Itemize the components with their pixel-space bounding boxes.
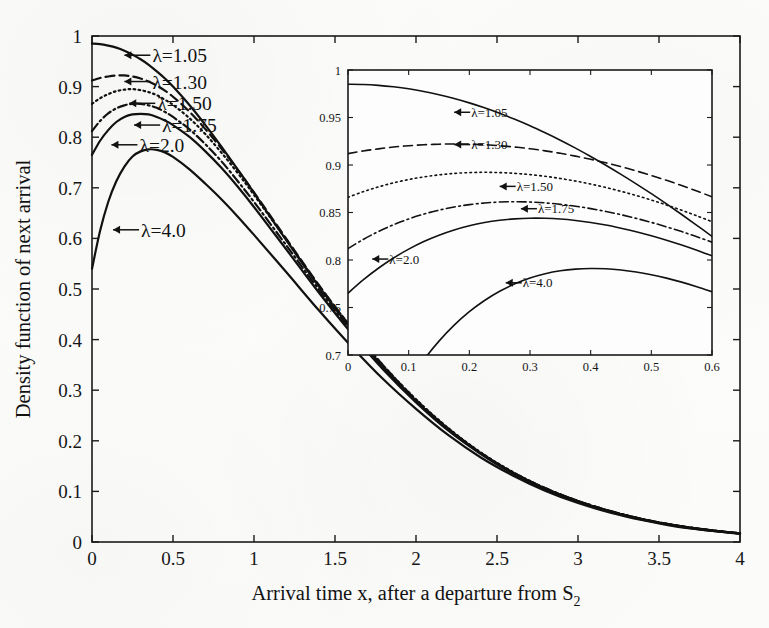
y-tick-label: 0.4 — [58, 330, 82, 351]
inset-y-tick-label: 0.95 — [319, 111, 341, 125]
density-function-chart: 00.511.522.533.5400.10.20.30.40.50.60.70… — [0, 0, 769, 628]
annotation-label: λ=1.30 — [152, 72, 207, 93]
inset-x-tick-label: 0.3 — [522, 360, 538, 374]
annotation-label: λ=2.0 — [389, 252, 419, 267]
x-tick-label: 3.5 — [647, 548, 671, 569]
y-tick-label: 0.9 — [58, 77, 82, 98]
inset-x-tick-label: 0.4 — [583, 360, 599, 374]
inset-x-tick-label: 0.6 — [704, 360, 720, 374]
curve-annotation: λ=1.50 — [129, 93, 212, 114]
inset-x-tick-label: 0.2 — [462, 360, 478, 374]
y-tick-label: 0.1 — [58, 481, 82, 502]
x-axis-title-subscript: 2 — [574, 594, 581, 609]
annotation-label: λ=1.05 — [471, 105, 507, 120]
inset-y-tick-label: 0.9 — [325, 159, 341, 173]
annotation-label: λ=1.75 — [162, 115, 217, 136]
x-tick-label: 1 — [249, 548, 259, 569]
y-tick-label: 0.5 — [58, 279, 82, 300]
figure-page: 00.511.522.533.5400.10.20.30.40.50.60.70… — [0, 0, 769, 628]
annotation-arrow-head — [111, 141, 118, 149]
annotation-arrow-head — [124, 78, 131, 86]
curve-annotation: λ=1.30 — [124, 72, 207, 93]
annotation-label: λ=1.30 — [471, 137, 507, 152]
annotation-label: λ=2.0 — [139, 135, 184, 156]
inset-x-tick-label: 0.5 — [644, 360, 660, 374]
curve-annotation: λ=1.75 — [134, 115, 217, 136]
annotation-label: λ=1.05 — [152, 45, 207, 66]
inset-x-tick-label: 0 — [345, 360, 351, 374]
annotation-arrow-head — [129, 99, 136, 107]
annotation-arrow-head — [134, 121, 141, 129]
y-tick-label: 0.2 — [58, 431, 82, 452]
curve-annotation: λ=1.05 — [124, 45, 207, 66]
x-tick-label: 0.5 — [161, 548, 185, 569]
inset-y-tick-label: 0.8 — [325, 254, 341, 268]
inset-y-tick-label: 0.7 — [325, 349, 341, 363]
annotation-label: λ=1.75 — [538, 201, 574, 216]
inset-y-tick-label: 0.75 — [319, 301, 341, 315]
x-tick-label: 3 — [573, 548, 583, 569]
y-tick-label: 0.6 — [58, 228, 82, 249]
inset-background — [348, 70, 712, 355]
y-tick-label: 0.7 — [58, 178, 82, 199]
curve-annotation: λ=2.0 — [111, 135, 184, 156]
x-tick-label: 2 — [411, 548, 421, 569]
inset-x-tick-label: 0.1 — [401, 360, 417, 374]
inset-y-tick-label: 1 — [335, 64, 341, 78]
x-axis-title: Arrival time x, after a departure from S… — [251, 582, 580, 609]
x-tick-label: 0 — [87, 548, 97, 569]
y-tick-label: 0 — [73, 532, 83, 553]
y-tick-label: 0.8 — [58, 127, 82, 148]
y-tick-label: 1 — [73, 26, 83, 47]
annotation-label: λ=1.50 — [517, 179, 553, 194]
annotation-label: λ=4.0 — [141, 220, 186, 241]
main-annotation-group: λ=1.05λ=1.30λ=1.50λ=1.75λ=2.0λ=4.0 — [111, 45, 216, 241]
y-axis-title: Density function of next arrival — [12, 159, 35, 418]
inset-y-tick-label: 0.85 — [319, 206, 341, 220]
x-tick-label: 2.5 — [485, 548, 509, 569]
curve-annotation: λ=4.0 — [113, 220, 186, 241]
x-tick-label: 1.5 — [323, 548, 347, 569]
annotation-label: λ=1.50 — [157, 93, 212, 114]
annotation-label: λ=4.0 — [523, 275, 553, 290]
annotation-arrow-head — [113, 226, 120, 234]
x-tick-label: 4 — [735, 548, 745, 569]
y-tick-label: 0.3 — [58, 380, 82, 401]
